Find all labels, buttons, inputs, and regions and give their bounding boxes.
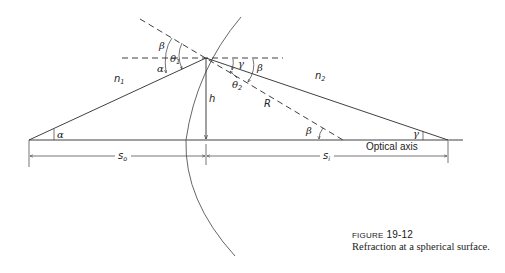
label-beta-top-left: β (158, 40, 165, 51)
label-alpha-bottom: α (57, 129, 64, 140)
figure-caption-text: Refraction at a spherical surface. (352, 241, 490, 252)
incident-ray (29, 58, 206, 140)
refracted-ray (206, 58, 448, 140)
label-alpha-top: α (157, 63, 164, 74)
label-theta1: θ1 (170, 53, 180, 66)
angle-gamma-top-arc (232, 59, 233, 70)
label-n2: n2 (315, 70, 325, 83)
label-beta-top-right: β (256, 62, 263, 73)
angle-beta-right-arc (248, 59, 254, 82)
angle-beta-bottom-arc (319, 128, 323, 139)
label-optical-axis: Optical axis (366, 141, 418, 152)
label-gamma-top: γ (238, 58, 244, 69)
figure-number: FIGURE 19-12 (352, 229, 490, 240)
label-s-o: so (118, 150, 127, 163)
spherical-surface-arc (186, 17, 241, 256)
angle-theta2-arc (230, 71, 237, 78)
label-h: h (209, 93, 215, 104)
normal-radius-dashed (140, 19, 343, 140)
label-theta2: θ2 (232, 79, 242, 92)
label-R: R (264, 98, 271, 109)
label-s-i: si (323, 150, 330, 163)
label-beta-bottom: β (305, 125, 312, 136)
label-n1: n1 (114, 73, 124, 86)
label-gamma-bottom: γ (413, 128, 419, 139)
figure-caption: FIGURE 19-12 Refraction at a spherical s… (352, 229, 490, 252)
